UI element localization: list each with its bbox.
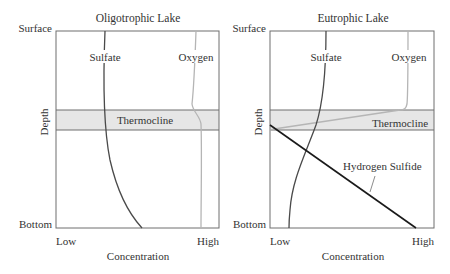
- y-top-label: Surface: [18, 22, 52, 34]
- hydrogen-sulfide-label: Hydrogen Sulfide: [343, 160, 422, 172]
- x-low-label: Low: [56, 235, 76, 247]
- panel-title: Oligotrophic Lake: [96, 12, 181, 25]
- panel-eutrophic: Eutrophic Lake Thermocline Sulfate Oxyge…: [232, 12, 434, 262]
- hydrogen-sulfide-line: [270, 125, 416, 228]
- y-axis-label: Depth: [38, 108, 50, 135]
- x-high-label: High: [197, 235, 220, 247]
- panel-title: Eutrophic Lake: [317, 12, 388, 25]
- lake-chemistry-diagram: Oligotrophic Lake Thermocline Sulfate Ox…: [0, 0, 450, 274]
- y-bottom-label: Bottom: [233, 218, 266, 230]
- panel-oligotrophic: Oligotrophic Lake Thermocline Sulfate Ox…: [18, 12, 219, 262]
- oxygen-label: Oxygen: [392, 51, 427, 63]
- x-low-label: Low: [270, 235, 290, 247]
- sulfate-label: Sulfate: [89, 51, 120, 63]
- sulfate-label: Sulfate: [310, 51, 341, 63]
- x-high-label: High: [412, 235, 435, 247]
- y-bottom-label: Bottom: [19, 218, 52, 230]
- thermocline-label: Thermocline: [117, 114, 173, 126]
- hydrogen-sulfide-leader: [370, 176, 375, 192]
- oxygen-label: Oxygen: [179, 51, 214, 63]
- y-top-label: Surface: [232, 22, 266, 34]
- x-axis-label: Concentration: [322, 250, 385, 262]
- thermocline-label: Thermocline: [372, 117, 428, 129]
- x-axis-label: Concentration: [107, 250, 170, 262]
- y-axis-label: Depth: [252, 108, 264, 135]
